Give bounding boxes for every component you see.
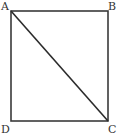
diagonal-a-c (11, 11, 108, 121)
vertex-label-d: D (1, 124, 10, 135)
geometry-figure: A B C D (0, 0, 123, 140)
vertex-label-a: A (1, 1, 9, 12)
vertex-label-c: C (108, 124, 116, 135)
vertex-label-b: B (108, 1, 116, 12)
figure-canvas (0, 0, 123, 140)
